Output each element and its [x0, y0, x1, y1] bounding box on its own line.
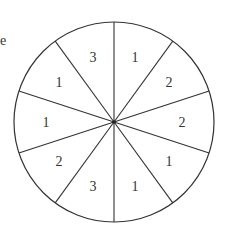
spoke-line: [55, 41, 114, 122]
sector-label: 1: [43, 115, 50, 130]
spinner-center: [112, 120, 116, 124]
spoke-line: [19, 122, 114, 153]
spoke-line: [114, 91, 209, 122]
spoke-line: [114, 41, 173, 122]
sector-label: 2: [55, 154, 62, 169]
sector-label: 2: [179, 115, 186, 130]
spoke-line: [114, 122, 209, 153]
sector-label: 1: [55, 75, 62, 90]
spoke-line: [55, 122, 114, 203]
sector-label: 3: [89, 50, 96, 65]
sector-label: 1: [166, 154, 173, 169]
sector-label: 2: [166, 75, 173, 90]
sector-label: 3: [89, 179, 96, 194]
sector-label: 1: [132, 179, 139, 194]
spinner-diagram: 1221132113: [0, 0, 226, 235]
spoke-line: [114, 122, 173, 203]
sector-label: 1: [132, 50, 139, 65]
spoke-line: [19, 91, 114, 122]
